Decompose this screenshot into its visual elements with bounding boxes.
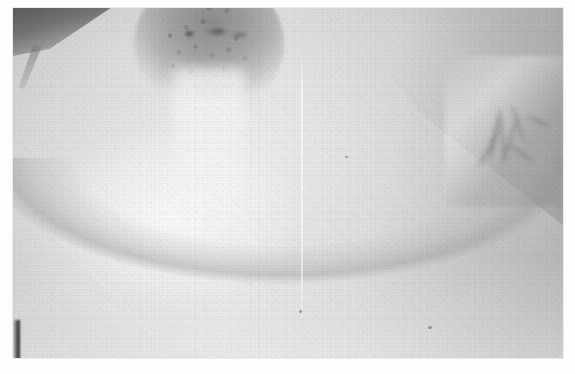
print-vignette [13, 8, 563, 358]
clinical-photograph-figure [0, 0, 575, 374]
photographic-print [13, 8, 563, 358]
